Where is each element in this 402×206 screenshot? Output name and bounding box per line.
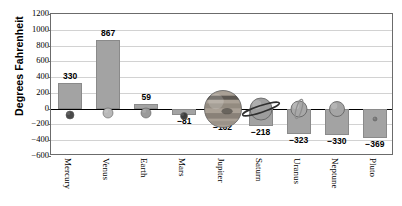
bar-mars[interactable] xyxy=(172,109,196,115)
y-axis-tick-label: 0 xyxy=(13,103,49,113)
bar-uranus[interactable] xyxy=(287,109,311,134)
y-axis-tick-label: 1000 xyxy=(13,24,49,34)
x-axis-label-neptune: Neptune xyxy=(330,158,340,206)
bar-value-label-venus: 867 xyxy=(82,28,134,38)
y-axis-tick-label: 800 xyxy=(13,40,49,50)
x-axis-label-earth: Earth xyxy=(139,158,149,206)
bar-value-label-earth: 59 xyxy=(120,92,172,102)
y-axis-tick-mark xyxy=(48,14,51,15)
bar-pluto[interactable] xyxy=(363,109,387,138)
y-axis-tick-label: 600 xyxy=(13,55,49,65)
y-axis-tick-label: −400 xyxy=(13,134,49,144)
bar-value-label-mercury: 330 xyxy=(44,71,96,81)
x-axis-label-pluto: Pluto xyxy=(368,158,378,206)
bar-mercury[interactable] xyxy=(58,83,82,109)
y-axis-tick-mark xyxy=(48,140,51,141)
y-axis-tick-label: −600 xyxy=(13,150,49,160)
y-axis-tick-mark xyxy=(48,30,51,31)
x-axis-label-saturn: Saturn xyxy=(254,158,264,206)
planet-temperature-bar-chart: Degrees Fahrenheit 120010008006004002000… xyxy=(0,0,402,206)
bar-earth[interactable] xyxy=(134,104,158,109)
x-axis-label-uranus: Uranus xyxy=(292,158,302,206)
y-axis-tick-mark xyxy=(48,93,51,94)
bar-jupiter[interactable] xyxy=(211,109,235,122)
y-axis-tick-mark xyxy=(48,61,51,62)
bar-value-label-pluto: −369 xyxy=(349,139,401,149)
bar-neptune[interactable] xyxy=(325,109,349,135)
y-axis-tick-label: −200 xyxy=(13,118,49,128)
x-axis-label-venus: Venus xyxy=(101,158,111,206)
y-axis-tick-mark xyxy=(48,156,51,157)
bar-saturn[interactable] xyxy=(249,109,273,126)
plot-area: 33086759−81−162−218−323−330−369 xyxy=(50,13,393,155)
y-axis-tick-mark xyxy=(48,46,51,47)
y-axis-tick-label: 1200 xyxy=(13,8,49,18)
y-axis-tick-mark xyxy=(48,124,51,125)
x-axis-label-mercury: Mercury xyxy=(63,158,73,206)
x-axis-label-mars: Mars xyxy=(177,158,187,206)
y-axis-tick-label: 200 xyxy=(13,87,49,97)
bar-venus[interactable] xyxy=(96,40,120,108)
x-axis-label-jupiter: Jupiter xyxy=(216,158,226,206)
